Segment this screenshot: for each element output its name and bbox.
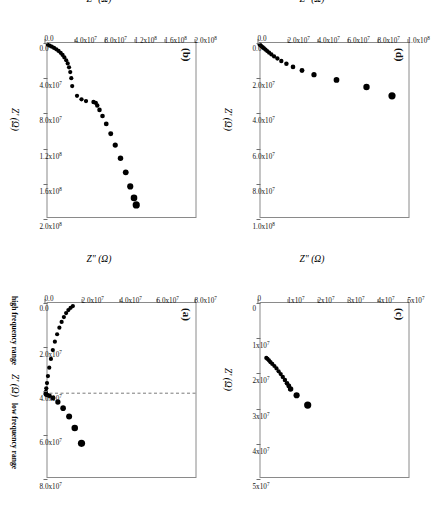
panel-a-xtick-label: 2.0x107 <box>40 349 62 359</box>
panel-b-xtick-label: 8.0x107 <box>40 115 62 125</box>
panel-d-plot-frame <box>260 42 410 218</box>
panel-d-data-point <box>300 68 305 73</box>
panel-b-data-point <box>84 98 88 102</box>
panel-c-xtick-label: 0 <box>253 305 257 313</box>
panel-a-xtick <box>44 435 48 436</box>
panel-d-xtick-label: 0.0 <box>253 45 262 53</box>
panel-c-xtick-label: 4x107 <box>253 445 270 455</box>
panel-d-xtick-label: 4.0x107 <box>253 115 275 125</box>
panel-a-xtick <box>44 347 48 348</box>
panel-d-data-point <box>279 58 283 62</box>
panel-b-data-point <box>123 169 129 175</box>
panel-c-slot: (c) Z' (Ω) Z" (Ω) 01x1072x1073x1074x1075… <box>190 262 435 471</box>
panel-b-data-point <box>108 131 113 136</box>
panel-b-data-point <box>68 69 72 73</box>
panel-a-x-axis-title: Z' (Ω) <box>10 374 20 397</box>
panel-a-low-frequency-note: low frequency range <box>10 403 19 469</box>
panel-a-data-point <box>62 314 66 318</box>
panel-c-plot-frame <box>260 302 410 478</box>
panel-d-xtick-label: 1.0x108 <box>253 221 275 231</box>
panel-b-xtick <box>44 219 48 220</box>
panel-b-xtick-label: 1.6x108 <box>40 185 62 195</box>
panel-a: (a) high frequency range Z' (Ω) low freq… <box>0 240 209 494</box>
panel-d-xtick <box>257 183 261 184</box>
panel-d-x-axis-title: Z' (Ω) <box>223 108 233 131</box>
panel-b-xtick <box>44 148 48 149</box>
panel-a-data-point <box>44 386 48 390</box>
panel-c-xtick-label: 5x107 <box>253 481 270 491</box>
panel-a-data-point <box>55 332 59 336</box>
panel-c-y-axis-title: Z" (Ω) <box>300 254 325 264</box>
panel-a-data-point <box>60 405 66 411</box>
panel-b-data-point <box>118 155 123 160</box>
panel-a-data-point <box>46 373 50 377</box>
panel-c-xtick <box>257 408 261 409</box>
panel-d-xtick <box>257 78 261 79</box>
panel-c-xtick <box>257 443 261 444</box>
panel-d-slot: (d) Z' (Ω) Z" (Ω) 0.02.0x1074.0x1076.0x1… <box>190 2 435 211</box>
panel-b-data-layer <box>46 43 196 219</box>
panel-b-data-point <box>131 194 138 201</box>
panel-d-data-point <box>284 61 289 66</box>
panel-a-xtick-label: 8.0x107 <box>40 481 62 491</box>
panel-a-high-frequency-note: high frequency range <box>10 296 19 365</box>
panel-c-data-layer <box>259 303 409 479</box>
panel-b-data-point <box>104 121 109 126</box>
panel-b-xtick-label: 2.0x108 <box>40 221 62 231</box>
panel-a-data-point <box>53 339 57 343</box>
panel-a-data-point <box>66 413 72 419</box>
panel-a-xtick <box>44 479 48 480</box>
panel-d-y-axis-title: Z" (Ω) <box>300 0 325 4</box>
panel-d-data-point <box>291 64 296 69</box>
panel-c-data-point <box>294 392 300 398</box>
panel-b-data-point <box>75 93 79 97</box>
panel-b-xtick <box>44 183 48 184</box>
panel-d-xtick <box>257 148 261 149</box>
panel-a-y-axis-title: Z" (Ω) <box>87 254 112 264</box>
panel-a-plot-frame <box>47 302 197 478</box>
panel-c-xtick <box>257 373 261 374</box>
panel-d-xtick-label: 2.0x107 <box>253 80 275 90</box>
panel-a-data-point <box>57 325 61 329</box>
panel-b-xtick-label: 4.0x107 <box>40 80 62 90</box>
panel-c-data-point <box>304 401 311 408</box>
panel-b-data-point <box>70 84 74 88</box>
panel-c-xtick <box>257 338 261 339</box>
panel-d-data-point <box>334 77 340 83</box>
panel-d-xtick-label: 6.0x107 <box>253 150 275 160</box>
panel-c-xtick-label: 1x107 <box>253 340 270 350</box>
panel-a-xtick-label: 6.0x107 <box>40 437 62 447</box>
panel-d-xtick <box>257 219 261 220</box>
panel-a-data-point <box>78 439 85 446</box>
panel-d-data-layer <box>259 43 409 219</box>
panel-c-xtick-label: 3x107 <box>253 410 270 420</box>
panel-a-xtick-label: 4.0x107 <box>40 393 62 403</box>
panel-b-data-point <box>100 113 105 118</box>
panel-d-xtick-label: 8.0x107 <box>253 185 275 195</box>
panel-a-xtick-label: 0.0 <box>40 305 49 313</box>
panel-b-data-point <box>133 201 140 208</box>
panel-a-data-point <box>45 380 49 384</box>
panel-d-tag: (d) <box>394 48 406 61</box>
panel-a-data-point <box>71 424 78 431</box>
panel-d: (d) Z' (Ω) Z" (Ω) 0.02.0x1074.0x1076.0x1… <box>213 0 422 234</box>
panel-a-xtick <box>44 391 48 392</box>
panel-b-data-point <box>127 183 133 189</box>
panel-b-data-point <box>113 142 118 147</box>
panel-a-data-point <box>60 319 64 323</box>
panel-b-xtick <box>44 78 48 79</box>
panel-b-xtick-label: 1.2x108 <box>40 150 62 160</box>
panel-a-data-point <box>47 365 51 369</box>
panel-d-xtick <box>257 113 261 114</box>
panel-b: (b) Z' (Ω) Z" (Ω) 0.04.0x1078.0x1071.2x1… <box>0 0 209 234</box>
panel-d-data-point <box>363 83 369 89</box>
panel-c-xtick-label: 2x107 <box>253 375 270 385</box>
panel-b-x-axis-title: Z' (Ω) <box>10 108 20 131</box>
panel-d-data-point <box>311 72 316 77</box>
panel-c: (c) Z' (Ω) Z" (Ω) 01x1072x1073x1074x1075… <box>213 240 422 494</box>
panel-a-data-layer <box>46 303 196 479</box>
panel-d-data-point <box>388 92 395 99</box>
panel-b-data-point <box>97 107 102 112</box>
panel-b-data-point <box>69 76 73 80</box>
